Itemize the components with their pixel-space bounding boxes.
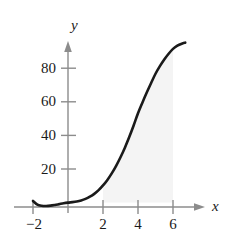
shaded-area-region xyxy=(103,49,173,203)
x-tick-label-6: 6 xyxy=(159,217,187,232)
y-tick-label-80: 80 xyxy=(26,61,56,76)
y-tick-label-40: 40 xyxy=(26,128,56,143)
x-tick-label-4: 4 xyxy=(124,217,152,232)
graph-figure: 80 60 40 20 −2 2 4 6 y x xyxy=(0,0,231,243)
x-tick-label-minus2: −2 xyxy=(18,217,50,232)
y-axis-label: y xyxy=(71,18,78,33)
x-axis-arrowhead xyxy=(194,203,205,211)
plot-canvas xyxy=(0,0,231,243)
x-axis-label: x xyxy=(212,199,219,214)
y-tick-label-60: 60 xyxy=(26,94,56,109)
y-axis-arrowhead xyxy=(64,41,72,52)
x-tick-label-2: 2 xyxy=(89,217,117,232)
y-tick-label-20: 20 xyxy=(26,162,56,177)
